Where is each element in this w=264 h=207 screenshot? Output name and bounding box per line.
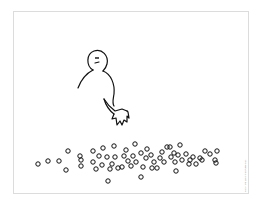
- ball-circle: [139, 151, 143, 155]
- ball-circle: [66, 149, 70, 153]
- ball-circle: [126, 159, 130, 163]
- figure-lower-arm: [104, 99, 127, 111]
- ball-circle: [122, 154, 126, 158]
- ball-circle: [178, 143, 182, 147]
- figure-head: [88, 50, 107, 71]
- ball-circle: [134, 160, 138, 164]
- ball-circle: [168, 145, 172, 149]
- ball-circle: [173, 160, 177, 164]
- ball-circle: [145, 147, 149, 151]
- ball-circle: [180, 158, 184, 162]
- ball-circle: [139, 175, 143, 179]
- ball-circle: [158, 156, 162, 160]
- ball-circle: [91, 160, 95, 164]
- copyright-text: Copyright 2007 The Page Guy: [244, 160, 247, 192]
- ball-circle: [97, 154, 101, 158]
- ball-circle: [149, 153, 153, 157]
- ball-circle: [152, 160, 156, 164]
- ball-circle: [191, 155, 195, 159]
- ball-circle: [144, 156, 148, 160]
- ball-circle: [184, 152, 188, 156]
- ball-circle: [91, 149, 95, 153]
- ball-circle: [141, 165, 145, 169]
- ball-circle: [64, 168, 68, 172]
- ball-circle: [160, 150, 164, 154]
- ball-circle: [133, 142, 137, 146]
- ball-circle: [176, 153, 180, 157]
- ball-circle: [203, 149, 207, 153]
- figure-eye: [96, 58, 97, 59]
- ball-circle: [105, 155, 109, 159]
- ball-circle: [169, 155, 173, 159]
- ball-circle: [150, 166, 154, 170]
- ball-circle: [162, 160, 166, 164]
- figure-left-shoulder: [78, 70, 93, 88]
- ball-circle: [194, 162, 198, 166]
- ball-circle: [155, 166, 159, 170]
- ball-circle: [94, 167, 98, 171]
- ball-circle: [46, 159, 50, 163]
- ball-circle: [124, 148, 128, 152]
- ball-circle: [36, 162, 40, 166]
- ball-circle: [129, 164, 133, 168]
- ball-circle: [112, 144, 116, 148]
- figure-mouth: [95, 62, 99, 63]
- figure-eye: [98, 58, 99, 59]
- ball-circle: [215, 149, 219, 153]
- figure-hand: [112, 111, 129, 125]
- cartoon-illustration: [0, 0, 264, 207]
- ball-circle: [79, 164, 83, 168]
- ball-circle: [57, 159, 61, 163]
- ball-circle: [113, 155, 117, 159]
- ball-circle: [131, 154, 135, 158]
- ball-circle: [110, 162, 114, 166]
- ball-circle: [208, 152, 212, 156]
- ball-circle: [174, 169, 178, 173]
- ball-circle: [108, 167, 112, 171]
- ball-circle: [100, 163, 104, 167]
- ball-circle: [106, 179, 110, 183]
- ball-circle: [101, 146, 105, 150]
